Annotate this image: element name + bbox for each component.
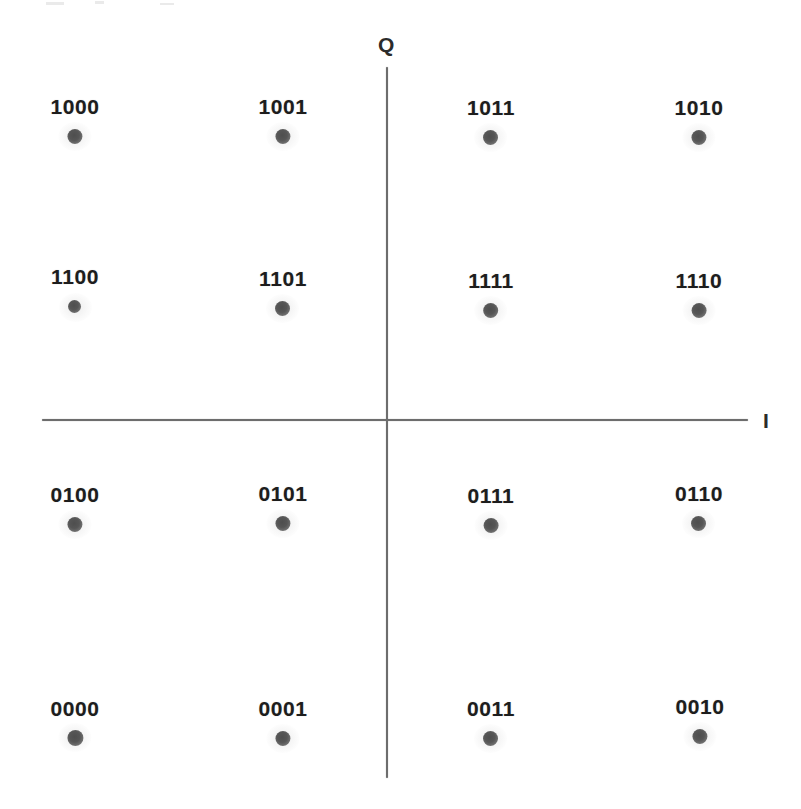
constellation-dot-wrap (675, 725, 724, 747)
constellation-dot-wrap (676, 299, 723, 321)
constellation-dot-wrap (674, 126, 723, 148)
constellation-point-label: 0100 (50, 484, 99, 505)
constellation-dot-wrap (50, 125, 99, 147)
constellation-dot (693, 729, 708, 744)
constellation-dot-wrap (51, 295, 99, 317)
scan-artifact (46, 2, 64, 5)
constellation-dot-wrap (50, 513, 99, 535)
constellation-point-label: 0101 (258, 483, 307, 504)
constellation-point[interactable]: 1111 (468, 270, 514, 321)
constellation-point-label: 1110 (676, 270, 723, 291)
constellation-dot (484, 518, 499, 533)
constellation-point-label: 0111 (468, 485, 515, 506)
constellation-point-label: 1010 (674, 97, 723, 118)
constellation-point[interactable]: 0101 (258, 483, 307, 534)
constellation-point-label: 1100 (51, 266, 99, 287)
constellation-dot (68, 129, 83, 144)
constellation-dot (276, 731, 291, 746)
constellation-point-label: 0001 (258, 698, 307, 719)
constellation-dot (692, 130, 707, 145)
constellation-point[interactable]: 0100 (50, 484, 99, 535)
constellation-point[interactable]: 1001 (258, 96, 307, 147)
constellation-dot-wrap (468, 514, 515, 536)
constellation-point-label: 0000 (50, 698, 99, 719)
constellation-point-label: 0011 (467, 698, 515, 719)
constellation-dot (68, 517, 83, 532)
constellation-point[interactable]: 1110 (676, 270, 723, 321)
constellation-point[interactable]: 0000 (50, 698, 99, 749)
scan-artifact (160, 3, 174, 5)
constellation-point-label: 1011 (467, 97, 515, 118)
constellation-dot-wrap (258, 512, 307, 534)
constellation-dot (484, 130, 499, 145)
constellation-dot-wrap (467, 126, 515, 148)
constellation-dot-wrap (468, 299, 514, 321)
constellation-point-label: 1101 (259, 268, 307, 289)
constellation-dot (484, 731, 499, 746)
constellation-point[interactable]: 1100 (51, 266, 99, 317)
constellation-point[interactable]: 0110 (675, 483, 723, 534)
constellation-point[interactable]: 1101 (259, 268, 307, 319)
constellation-point-label: 1111 (468, 270, 514, 291)
constellation-dot (692, 516, 707, 531)
constellation-dot-wrap (258, 125, 307, 147)
constellation-point[interactable]: 0010 (675, 696, 724, 747)
constellation-dot (692, 303, 707, 318)
constellation-dot-wrap (467, 727, 515, 749)
constellation-point-label: 1000 (50, 96, 99, 117)
constellation-point[interactable]: 0011 (467, 698, 515, 749)
q-axis-label: Q (378, 34, 395, 55)
constellation-dot-wrap (675, 512, 723, 534)
constellation-dot (484, 303, 499, 318)
constellation-point[interactable]: 1010 (674, 97, 723, 148)
constellation-dot (276, 129, 291, 144)
constellation-point[interactable]: 0111 (468, 485, 515, 536)
constellation-point-label: 0110 (675, 483, 723, 504)
constellation-dot (67, 730, 83, 746)
i-axis-label: I (763, 410, 769, 431)
constellation-dot-wrap (258, 727, 307, 749)
constellation-dot (276, 516, 291, 531)
qam-constellation-figure: Q I 1000 1001 1011 1010 1100 1101 (0, 0, 801, 809)
constellation-point[interactable]: 1011 (467, 97, 515, 148)
constellation-dot-wrap (50, 727, 99, 749)
constellation-point-label: 1001 (258, 96, 307, 117)
constellation-point-label: 0010 (675, 696, 724, 717)
constellation-point[interactable]: 0001 (258, 698, 307, 749)
q-axis-line (386, 67, 388, 778)
scan-artifact (95, 1, 104, 4)
constellation-point[interactable]: 1000 (50, 96, 99, 147)
constellation-dot (276, 301, 291, 316)
i-axis-line (42, 419, 748, 421)
constellation-dot-wrap (259, 297, 307, 319)
constellation-dot (69, 300, 82, 313)
